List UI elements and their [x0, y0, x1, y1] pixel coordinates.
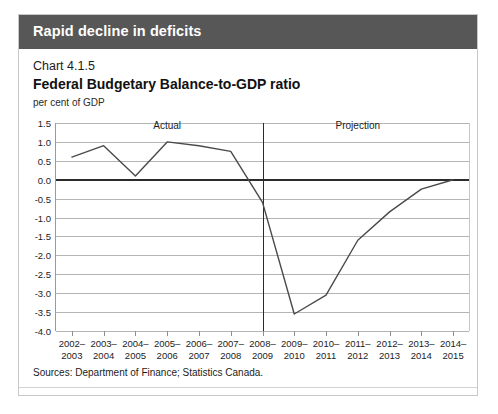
x-axis-tick-label: 2011–2012	[345, 338, 371, 361]
x-axis-tick-label: 2013–2014	[408, 338, 434, 361]
y-axis-tick-label: -2.0	[35, 250, 51, 261]
x-axis-tick-label: 2008–2009	[249, 338, 275, 361]
x-axis-tick	[72, 331, 73, 336]
chart-plot-area: 1.51.00.50.0-0.5-1.0-1.5-2.0-2.5-3.0-3.5…	[56, 123, 469, 331]
plot-right-border	[469, 123, 470, 331]
balance-to-gdp-series	[72, 142, 453, 314]
x-axis-tick-label: 2004–2005	[122, 338, 148, 361]
x-axis-tick-label: 2010–2011	[313, 338, 339, 361]
y-axis-tick-label: -0.5	[35, 193, 51, 204]
y-axis-tick-label: -1.0	[35, 212, 51, 223]
x-axis-tick-label: 2003–2004	[90, 338, 116, 361]
x-axis-tick	[294, 331, 295, 336]
x-axis-tick	[167, 331, 168, 336]
x-axis-tick	[358, 331, 359, 336]
y-axis-tick-label: 1.0	[38, 136, 51, 147]
x-axis-tick-label: 2014–2015	[440, 338, 466, 361]
x-axis-tick-label: 2009–2010	[281, 338, 307, 361]
x-axis-tick-label: 2007–2008	[218, 338, 244, 361]
x-axis-tick	[421, 331, 422, 336]
x-axis-tick	[326, 331, 327, 336]
x-axis-tick	[104, 331, 105, 336]
x-axis-tick	[263, 331, 264, 336]
y-axis-tick-label: -1.5	[35, 231, 51, 242]
x-axis-tick	[135, 331, 136, 336]
x-axis-tick	[199, 331, 200, 336]
screenshot-root: Rapid decline in deficits Chart 4.1.5 Fe…	[0, 0, 498, 414]
series-line-chart	[56, 123, 469, 331]
x-axis-tick-label: 2002–2003	[59, 338, 85, 361]
x-axis-tick	[453, 331, 454, 336]
y-axis-tick-label: -4.0	[35, 326, 51, 337]
y-axis-tick-label: -3.5	[35, 307, 51, 318]
x-axis-tick-label: 2005–2006	[154, 338, 180, 361]
x-axis-tick-label: 2012–2013	[376, 338, 402, 361]
footer-divider	[19, 387, 477, 388]
chart-number-label: Chart 4.1.5	[33, 59, 95, 73]
y-axis-tick-label: -2.5	[35, 269, 51, 280]
chart-units-label: per cent of GDP	[33, 97, 105, 108]
sources-note: Sources: Department of Finance; Statisti…	[33, 367, 263, 378]
card-header-bar: Rapid decline in deficits	[19, 15, 477, 49]
chart-title: Federal Budgetary Balance-to-GDP ratio	[33, 76, 300, 92]
x-axis-tick	[231, 331, 232, 336]
y-axis-tick-label: 1.5	[38, 118, 51, 129]
chart-card: Rapid decline in deficits Chart 4.1.5 Fe…	[18, 14, 478, 396]
x-axis-tick-label: 2006–2007	[186, 338, 212, 361]
page-title: Rapid decline in deficits	[33, 23, 201, 39]
x-axis-tick	[390, 331, 391, 336]
y-axis-tick-label: 0.5	[38, 155, 51, 166]
y-axis-tick-label: 0.0	[38, 174, 51, 185]
y-axis-tick-label: -3.0	[35, 288, 51, 299]
